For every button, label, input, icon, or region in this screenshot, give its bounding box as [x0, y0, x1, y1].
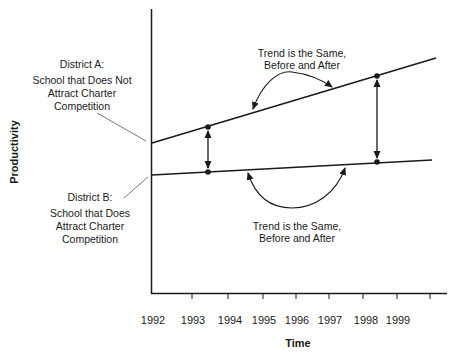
trend-arc-bottom — [248, 168, 345, 208]
x-tick-1996: 1996 — [285, 314, 309, 326]
district-a-label: District A: School that Does Not Attract… — [22, 58, 142, 113]
trend-top-line2: Before and After — [258, 59, 346, 71]
chart-canvas — [0, 0, 459, 362]
trend-bottom-line1: Trend is the Same, — [253, 220, 341, 232]
x-tick-1992: 1992 — [141, 314, 165, 326]
district-a-point-1993 — [205, 124, 211, 130]
district-b-line — [152, 160, 432, 175]
district-a-leader — [97, 113, 146, 141]
x-tick-1994: 1994 — [218, 314, 242, 326]
x-tick-1997: 1997 — [318, 314, 342, 326]
district-b-title: District B: — [38, 191, 142, 204]
x-tick-1998: 1998 — [354, 314, 378, 326]
y-axis-label: Productivity — [8, 120, 20, 184]
trend-annotation-bottom: Trend is the Same, Before and After — [253, 220, 341, 244]
x-tick-1999: 1999 — [386, 314, 410, 326]
trend-annotation-top: Trend is the Same, Before and After — [258, 47, 346, 71]
x-axis-label: Time — [285, 337, 310, 349]
trend-top-line1: Trend is the Same, — [258, 47, 346, 59]
trend-arc-top — [253, 72, 332, 109]
district-a-point-1998 — [374, 73, 380, 79]
district-b-point-1993 — [205, 169, 211, 175]
x-tick-1995: 1995 — [252, 314, 276, 326]
trend-bottom-line2: Before and After — [253, 232, 341, 244]
district-b-label: District B: School that Does Attract Cha… — [38, 191, 142, 246]
district-b-desc: School that Does Attract Charter Competi… — [38, 207, 142, 246]
district-b-point-1998 — [374, 159, 380, 165]
x-tick-1993: 1993 — [181, 314, 205, 326]
district-a-title: District A: — [22, 58, 142, 71]
district-a-desc: School that Does Not Attract Charter Com… — [22, 74, 142, 113]
